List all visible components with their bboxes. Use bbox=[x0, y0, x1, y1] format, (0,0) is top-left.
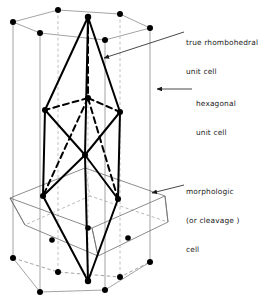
morphologic-edge-b bbox=[92, 228, 98, 256]
morphologic-front-left-face bbox=[10, 198, 98, 256]
lattice-point-interior bbox=[125, 235, 131, 241]
lattice-point bbox=[147, 259, 153, 265]
lattice-point bbox=[85, 95, 91, 101]
lattice-point bbox=[102, 287, 108, 293]
label-line-2: (or cleavage ) bbox=[186, 216, 239, 226]
lattice-point bbox=[37, 30, 43, 36]
label-morphologic-cleavage-cell: morphologic (or cleavage ) cell bbox=[186, 168, 239, 274]
label-hexagonal-unit-cell: hexagonal unit cell bbox=[196, 80, 236, 157]
morphologic-edge-a bbox=[10, 198, 25, 225]
lattice-point-interior bbox=[49, 237, 55, 243]
lattice-point bbox=[117, 11, 123, 17]
lattice-point-bottom-apex bbox=[85, 278, 91, 284]
leader-rhombohedral bbox=[104, 32, 184, 58]
lattice-point bbox=[55, 7, 61, 13]
rhomb-hidden-back-to-lowleft bbox=[43, 98, 88, 196]
hexagon-vertical-edges bbox=[13, 22, 150, 292]
lattice-point bbox=[55, 269, 61, 275]
hexagon-top-face bbox=[13, 10, 150, 40]
label-line-1: true rhombohedral bbox=[186, 38, 258, 48]
label-line-2: unit cell bbox=[186, 67, 258, 77]
rhomb-edge-front-base bbox=[85, 155, 88, 281]
rhomb-edge-apex-right bbox=[88, 17, 120, 112]
leader-morphologic bbox=[152, 185, 184, 193]
label-line-1: hexagonal bbox=[196, 99, 236, 109]
rhomb-edge-left-lowleft bbox=[43, 110, 45, 196]
lattice-point bbox=[102, 37, 108, 43]
lattice-point bbox=[10, 19, 16, 25]
unit-cell-diagram: true rhombohedral unit cell hexagonal un… bbox=[0, 0, 273, 303]
rhomb-edge-front-lowright bbox=[85, 155, 118, 199]
rhomb-edge-lowright-base bbox=[88, 199, 118, 281]
lattice-point-interior bbox=[85, 225, 91, 231]
lattice-point bbox=[10, 255, 16, 261]
lattice-point bbox=[115, 196, 121, 202]
lattice-point bbox=[147, 25, 153, 31]
rhomb-edge-front-lowleft bbox=[43, 155, 85, 196]
lattice-point bbox=[37, 289, 43, 295]
lattice-point bbox=[117, 109, 123, 115]
lattice-point-top-apex bbox=[85, 14, 91, 20]
rhomb-hidden-back-left bbox=[45, 98, 88, 110]
label-line-3: cell bbox=[186, 245, 239, 255]
rhombohedral-hidden-edges bbox=[43, 17, 120, 199]
lattice-point bbox=[117, 274, 123, 280]
hexagon-bottom-front bbox=[13, 258, 150, 292]
rhomb-edge-apex-left bbox=[45, 17, 88, 110]
label-line-2: unit cell bbox=[196, 128, 236, 138]
label-line-1: morphologic bbox=[186, 187, 239, 197]
lattice-point bbox=[82, 152, 88, 158]
lattice-point bbox=[40, 193, 46, 199]
morphologic-edge-c bbox=[165, 196, 168, 222]
morphologic-hidden-edges bbox=[25, 168, 168, 225]
lattice-point bbox=[42, 107, 48, 113]
morphologic-cleavage-cell bbox=[10, 168, 168, 256]
rhomb-hidden-back-to-lowright bbox=[88, 98, 118, 199]
